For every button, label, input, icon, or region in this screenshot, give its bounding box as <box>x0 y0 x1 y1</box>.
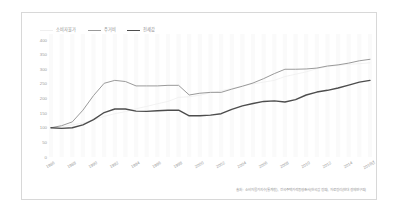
svg-text:0: 0 <box>45 155 48 160</box>
svg-text:2002: 2002 <box>215 160 226 169</box>
chart-source-note: 출처: 소비자물가지수(통계청), 전국주택가격동향조사(한국감정원), 자료정… <box>236 187 366 192</box>
chart-y-axis-tick-labels: 400350300250200150100500 <box>40 38 48 160</box>
chart-figure-frame: 소비자물가 주거비 전세값 400350300250200150100500 1… <box>21 12 377 200</box>
svg-text:2004: 2004 <box>236 160 247 169</box>
svg-text:2006: 2006 <box>258 160 269 169</box>
svg-text:1992: 1992 <box>109 160 120 169</box>
svg-text:150: 150 <box>40 111 48 116</box>
svg-text:2016년: 2016년 <box>362 158 377 170</box>
chart-container: 소비자물가 주거비 전세값 400350300250200150100500 1… <box>22 13 378 201</box>
svg-text:1998: 1998 <box>173 160 184 169</box>
svg-text:1994: 1994 <box>130 160 141 169</box>
svg-text:250: 250 <box>40 81 48 86</box>
svg-text:2014: 2014 <box>343 160 354 169</box>
svg-text:1988: 1988 <box>66 160 77 169</box>
svg-text:2012: 2012 <box>321 160 332 169</box>
svg-text:2000: 2000 <box>194 160 205 169</box>
chart-x-axis-tick-labels: 1986198819901992199419961998200020022004… <box>45 158 376 170</box>
svg-text:100: 100 <box>40 125 48 130</box>
svg-text:1990: 1990 <box>87 160 98 169</box>
screenshot-root: 소비자물가 주거비 전세값 400350300250200150100500 1… <box>0 0 398 213</box>
svg-text:1996: 1996 <box>151 160 162 169</box>
svg-text:2010: 2010 <box>300 160 311 169</box>
chart-plot-area: 400350300250200150100500 198619881990199… <box>22 13 378 201</box>
svg-text:50: 50 <box>42 140 47 145</box>
svg-text:400: 400 <box>40 38 48 43</box>
svg-text:1986: 1986 <box>45 160 56 169</box>
chart-gridlines <box>49 34 372 157</box>
svg-text:2008: 2008 <box>279 160 290 169</box>
svg-text:350: 350 <box>40 52 48 57</box>
svg-text:300: 300 <box>40 67 48 72</box>
svg-text:200: 200 <box>40 96 48 101</box>
